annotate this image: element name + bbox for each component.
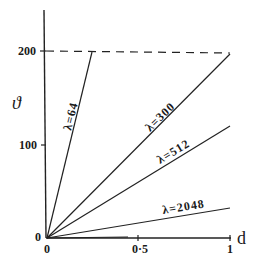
series-label-lambda-300: λ=300 — [142, 99, 177, 134]
y-tick-label-100: 100 — [19, 138, 37, 152]
x-tick-label-1: 1 — [227, 242, 233, 256]
series-line-lambda-512 — [47, 126, 230, 238]
x-tick-label-0: 0 — [44, 242, 50, 256]
y-axis-label: ϑ — [12, 93, 22, 113]
y-axis — [44, 10, 46, 238]
series-label-lambda-64: λ=64 — [60, 100, 81, 131]
x-tick-label-half: 0·5 — [132, 242, 148, 256]
series-line-lambda-2048 — [47, 208, 230, 238]
y-tick-label-200: 200 — [18, 44, 36, 58]
chart: 200 100 0 0 0·5 1 ϑ d λ=64 λ=300 λ=512 λ… — [0, 0, 257, 267]
series-label-lambda-2048: λ=2048 — [161, 196, 205, 217]
x-axis-label: d — [237, 228, 246, 248]
reference-line-200 — [46, 51, 230, 53]
series-label-lambda-512: λ=512 — [154, 136, 192, 166]
series-line-lambda-64 — [47, 52, 92, 238]
y-tick-label-0: 0 — [35, 230, 41, 244]
